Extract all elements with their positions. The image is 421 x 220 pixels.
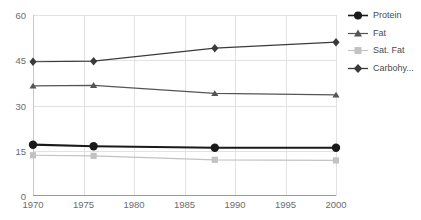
y-tick-3: 45: [0, 55, 26, 66]
x-tick-4: 1990: [224, 199, 245, 210]
legend-label-fat: Fat: [373, 28, 386, 39]
y-axis-tick-labels: 60 45 30 15 0: [0, 0, 29, 220]
carbohydrates-marker-icon: [347, 63, 369, 74]
x-tick-5: 1995: [275, 199, 296, 210]
data-point: [211, 44, 218, 53]
fat-marker-icon: [347, 28, 369, 39]
protein-marker-icon: [347, 10, 369, 21]
legend-item-protein[interactable]: Protein: [347, 10, 414, 21]
x-tick-2: 1980: [123, 199, 144, 210]
series-fat: [29, 82, 339, 98]
data-point: [91, 153, 97, 159]
data-point: [333, 157, 339, 163]
plot-area: [33, 15, 336, 196]
legend-label-protein: Protein: [373, 10, 402, 21]
series-line: [33, 85, 336, 95]
legend-item-fat[interactable]: Fat: [347, 28, 414, 39]
data-point: [212, 157, 218, 163]
sat-fat-marker-icon: [347, 45, 369, 56]
data-point: [90, 57, 97, 66]
data-point: [332, 38, 339, 47]
data-point: [29, 141, 37, 149]
y-tick-4: 60: [0, 10, 26, 21]
data-point: [211, 144, 219, 152]
y-tick-2: 30: [0, 100, 26, 111]
x-tick-3: 1985: [174, 199, 195, 210]
data-point: [332, 144, 340, 152]
data-point: [89, 142, 97, 150]
legend-item-carbohydrates[interactable]: Carbohy...: [347, 63, 414, 74]
series-line: [33, 155, 336, 160]
data-point: [29, 58, 36, 66]
series-line: [33, 42, 336, 62]
series-carbohy: [29, 38, 339, 66]
series-line: [33, 145, 336, 148]
x-tick-6: 2000: [325, 199, 346, 210]
series-protein: [29, 141, 340, 152]
legend-item-sat-fat[interactable]: Sat. Fat: [347, 45, 414, 56]
data-point: [30, 152, 36, 158]
x-tick-1: 1975: [73, 199, 94, 210]
x-tick-0: 1970: [22, 199, 43, 210]
legend-label-carbohydrates: Carbohy...: [373, 63, 414, 74]
series-layer: [33, 15, 336, 196]
legend-label-sat-fat: Sat. Fat: [373, 45, 405, 56]
y-tick-1: 15: [0, 145, 26, 156]
series-sat-fat: [30, 152, 339, 163]
line-chart: 60 45 30 15 0 1970 1975 1980 1985 1990 1…: [0, 0, 421, 220]
legend: Protein Fat Sat. Fat Carbohy...: [347, 10, 414, 74]
